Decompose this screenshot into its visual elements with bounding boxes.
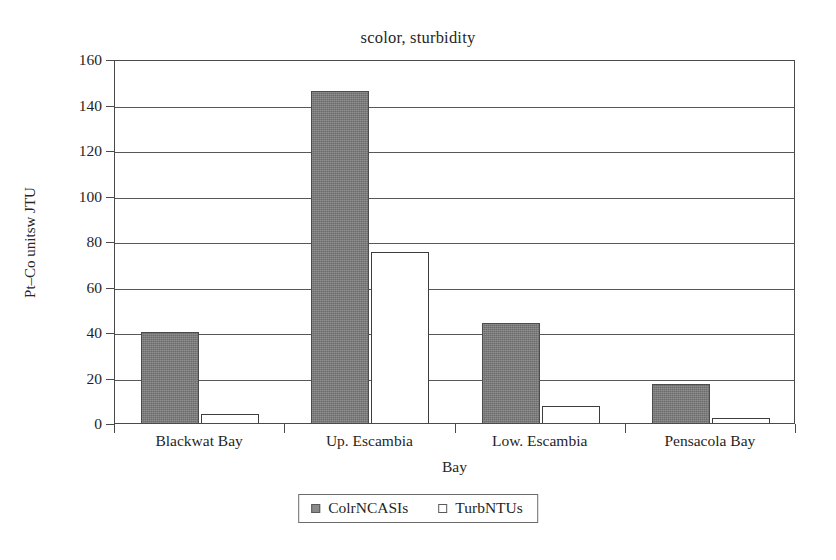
y-tick-label: 0 xyxy=(42,415,102,433)
x-tick-label: Up. Escambia xyxy=(326,432,413,450)
x-tick-mark xyxy=(625,424,626,433)
legend-label: TurbNTUs xyxy=(455,499,522,517)
legend-label: ColrNCASIs xyxy=(328,499,408,517)
bar-chart: scolor, sturbidity Pt–Co unitsw JTU 1601… xyxy=(0,0,836,560)
x-tick-mark xyxy=(795,424,796,433)
legend-item: TurbNTUs xyxy=(438,499,522,517)
bar-group xyxy=(626,61,796,423)
y-axis-title: Pt–Co unitsw JTU xyxy=(22,187,39,298)
chart-legend: ColrNCASIsTurbNTUs xyxy=(298,494,538,523)
bar-colrncasis xyxy=(311,91,369,423)
y-tick-mark xyxy=(106,288,115,289)
bar-group xyxy=(115,61,285,423)
y-tick-mark xyxy=(106,242,115,243)
y-tick-mark xyxy=(106,60,115,61)
legend-swatch-icon xyxy=(438,504,447,513)
x-tick-label: Low. Escambia xyxy=(492,432,587,450)
y-tick-label: 140 xyxy=(42,97,102,115)
x-tick-mark xyxy=(455,424,456,433)
y-tick-label: 100 xyxy=(42,188,102,206)
y-tick-label: 20 xyxy=(42,370,102,388)
legend-swatch-icon xyxy=(311,504,320,513)
bar-group xyxy=(456,61,626,423)
x-tick-label: Pensacola Bay xyxy=(664,432,755,450)
bar-colrncasis xyxy=(482,323,540,423)
y-tick-mark xyxy=(106,379,115,380)
y-tick-label: 60 xyxy=(42,279,102,297)
bar-colrncasis xyxy=(141,332,199,423)
y-tick-label: 120 xyxy=(42,142,102,160)
y-tick-label: 80 xyxy=(42,233,102,251)
bar-turbntus xyxy=(542,406,600,423)
y-tick-label: 160 xyxy=(42,51,102,69)
x-axis-title: Bay xyxy=(114,458,795,476)
y-axis-title-container: Pt–Co unitsw JTU xyxy=(16,60,44,424)
x-tick-mark xyxy=(114,424,115,433)
bar-colrncasis xyxy=(652,384,710,423)
bar-turbntus xyxy=(371,252,429,423)
bar-group xyxy=(285,61,455,423)
y-tick-mark xyxy=(106,333,115,334)
x-tick-label: Blackwat Bay xyxy=(155,432,242,450)
y-tick-mark xyxy=(106,106,115,107)
legend-item: ColrNCASIs xyxy=(311,499,408,517)
x-tick-mark xyxy=(284,424,285,433)
y-tick-label: 40 xyxy=(42,324,102,342)
y-tick-mark xyxy=(106,151,115,152)
plot-area xyxy=(114,60,795,424)
y-tick-mark xyxy=(106,197,115,198)
bar-turbntus xyxy=(712,418,770,423)
bar-turbntus xyxy=(201,414,259,423)
chart-title: scolor, sturbidity xyxy=(0,28,836,48)
